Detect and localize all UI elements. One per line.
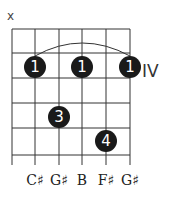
string-note-label: G♯ bbox=[50, 172, 68, 188]
finger-dot: 4 bbox=[95, 130, 117, 152]
finger-dot: 1 bbox=[24, 56, 46, 78]
finger-dot: 3 bbox=[48, 106, 70, 128]
string-note-label: G♯ bbox=[121, 172, 139, 188]
fret-position-label: IV bbox=[142, 61, 159, 81]
chord-diagram: x IV 1 1 1 3 4 C♯ G♯ B F♯ G♯ bbox=[0, 0, 171, 199]
finger-dot: 1 bbox=[71, 56, 93, 78]
string-note-label: F♯ bbox=[98, 172, 115, 188]
string-note-label: C♯ bbox=[26, 172, 44, 188]
string-note-label: B bbox=[77, 172, 87, 188]
muted-string-marker: x bbox=[7, 9, 14, 23]
fretboard-grid bbox=[0, 0, 171, 199]
finger-dot: 1 bbox=[119, 56, 141, 78]
